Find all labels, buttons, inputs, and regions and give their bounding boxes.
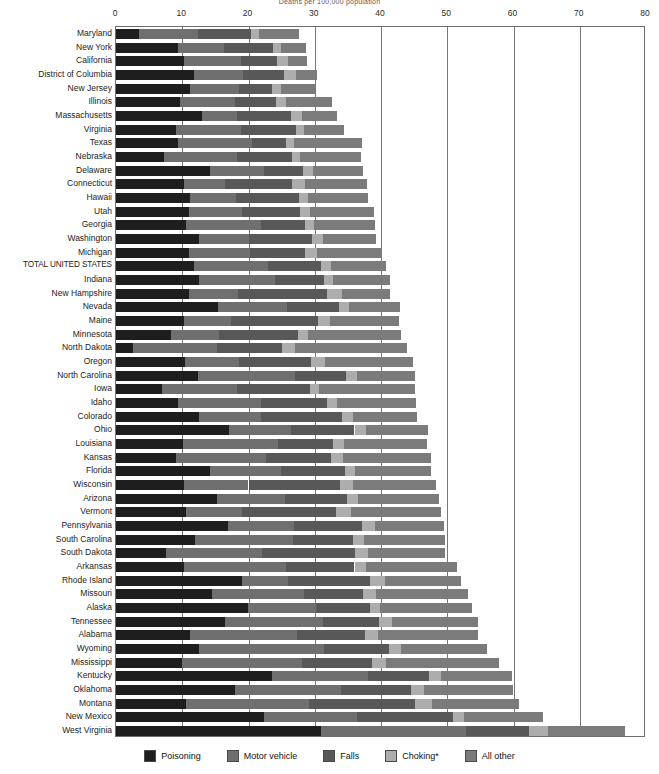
bar-row[interactable] bbox=[116, 125, 646, 135]
bar-segment-choking[interactable] bbox=[362, 521, 375, 531]
bar-segment-poisoning[interactable] bbox=[116, 29, 139, 39]
bar-segment-allother[interactable] bbox=[281, 43, 306, 53]
bar-segment-poisoning[interactable] bbox=[116, 466, 210, 476]
bar-segment-choking[interactable] bbox=[346, 371, 357, 381]
bar-segment-falls[interactable] bbox=[278, 439, 334, 449]
bar-segment-allother[interactable] bbox=[464, 712, 543, 722]
bar-segment-poisoning[interactable] bbox=[116, 371, 198, 381]
bar-segment-falls[interactable] bbox=[225, 179, 292, 189]
bar-row[interactable] bbox=[116, 29, 646, 39]
bar-segment-allother[interactable] bbox=[351, 507, 442, 517]
bar-segment-allother[interactable] bbox=[337, 398, 417, 408]
bar-row[interactable] bbox=[116, 699, 646, 709]
bar-segment-allother[interactable] bbox=[308, 330, 401, 340]
bar-row[interactable] bbox=[116, 97, 646, 107]
bar-segment-allother[interactable] bbox=[325, 357, 413, 367]
bar-segment-choking[interactable] bbox=[272, 84, 281, 94]
bar-row[interactable] bbox=[116, 56, 646, 66]
bar-segment-allother[interactable] bbox=[366, 425, 428, 435]
bar-segment-allother[interactable] bbox=[342, 289, 390, 299]
bar-segment-poisoning[interactable] bbox=[116, 234, 199, 244]
bar-segment-choking[interactable] bbox=[300, 207, 310, 217]
bar-segment-choking[interactable] bbox=[370, 576, 385, 586]
bar-segment-choking[interactable] bbox=[347, 494, 358, 504]
bar-segment-poisoning[interactable] bbox=[116, 630, 190, 640]
bar-segment-poisoning[interactable] bbox=[116, 425, 229, 435]
bar-segment-choking[interactable] bbox=[429, 671, 442, 681]
bar-row[interactable] bbox=[116, 384, 646, 394]
bar-segment-motorvehicle[interactable] bbox=[199, 234, 249, 244]
bar-segment-falls[interactable] bbox=[242, 207, 300, 217]
bar-segment-falls[interactable] bbox=[249, 234, 313, 244]
legend-item-poisoning[interactable]: Poisoning bbox=[144, 750, 201, 762]
bar-row[interactable] bbox=[116, 603, 646, 613]
bar-segment-allother[interactable] bbox=[288, 56, 307, 66]
bar-segment-choking[interactable] bbox=[282, 343, 295, 353]
bar-segment-allother[interactable] bbox=[441, 671, 511, 681]
bar-segment-motorvehicle[interactable] bbox=[199, 275, 275, 285]
bar-segment-allother[interactable] bbox=[343, 453, 430, 463]
bar-segment-poisoning[interactable] bbox=[116, 316, 184, 326]
bar-segment-choking[interactable] bbox=[318, 316, 330, 326]
bar-segment-allother[interactable] bbox=[375, 521, 444, 531]
bar-segment-poisoning[interactable] bbox=[116, 671, 272, 681]
bar-segment-allother[interactable] bbox=[378, 630, 477, 640]
bar-segment-poisoning[interactable] bbox=[116, 712, 264, 722]
bar-row[interactable] bbox=[116, 357, 646, 367]
bar-segment-allother[interactable] bbox=[314, 220, 375, 230]
bar-row[interactable] bbox=[116, 576, 646, 586]
bar-segment-motorvehicle[interactable] bbox=[180, 97, 235, 107]
bar-segment-motorvehicle[interactable] bbox=[190, 193, 236, 203]
bar-segment-poisoning[interactable] bbox=[116, 125, 176, 135]
bar-segment-motorvehicle[interactable] bbox=[198, 371, 295, 381]
bar-segment-choking[interactable] bbox=[333, 439, 344, 449]
bar-segment-choking[interactable] bbox=[365, 630, 378, 640]
bar-segment-choking[interactable] bbox=[355, 425, 366, 435]
bar-segment-falls[interactable] bbox=[368, 671, 429, 681]
bar-row[interactable] bbox=[116, 726, 646, 736]
bar-row[interactable] bbox=[116, 480, 646, 490]
bar-row[interactable] bbox=[116, 535, 646, 545]
legend-item-allother[interactable]: All other bbox=[465, 750, 515, 762]
bar-row[interactable] bbox=[116, 685, 646, 695]
bar-segment-poisoning[interactable] bbox=[116, 494, 217, 504]
bar-segment-falls[interactable] bbox=[261, 220, 305, 230]
bar-segment-falls[interactable] bbox=[294, 521, 362, 531]
bar-row[interactable] bbox=[116, 439, 646, 449]
bar-segment-falls[interactable] bbox=[198, 29, 251, 39]
bar-segment-motorvehicle[interactable] bbox=[184, 316, 232, 326]
bar-segment-choking[interactable] bbox=[327, 289, 342, 299]
bar-row[interactable] bbox=[116, 494, 646, 504]
bar-segment-motorvehicle[interactable] bbox=[186, 507, 242, 517]
bar-segment-allother[interactable] bbox=[353, 480, 436, 490]
bar-segment-choking[interactable] bbox=[292, 152, 300, 162]
bar-segment-choking[interactable] bbox=[251, 29, 259, 39]
bar-segment-allother[interactable] bbox=[308, 193, 368, 203]
bar-segment-falls[interactable] bbox=[357, 712, 452, 722]
legend-item-motorvehicle[interactable]: Motor vehicle bbox=[227, 750, 298, 762]
bar-segment-choking[interactable] bbox=[355, 548, 368, 558]
bar-segment-falls[interactable] bbox=[239, 84, 273, 94]
bar-segment-allother[interactable] bbox=[432, 699, 519, 709]
bar-segment-poisoning[interactable] bbox=[116, 207, 189, 217]
bar-segment-choking[interactable] bbox=[411, 685, 424, 695]
bar-segment-poisoning[interactable] bbox=[116, 384, 162, 394]
bar-segment-motorvehicle[interactable] bbox=[212, 589, 304, 599]
bar-segment-allother[interactable] bbox=[392, 617, 478, 627]
bar-segment-motorvehicle[interactable] bbox=[189, 248, 250, 258]
bar-segment-motorvehicle[interactable] bbox=[190, 84, 239, 94]
bar-segment-choking[interactable] bbox=[353, 535, 364, 545]
bar-segment-poisoning[interactable] bbox=[116, 439, 183, 449]
bar-segment-choking[interactable] bbox=[299, 193, 308, 203]
bar-row[interactable] bbox=[116, 412, 646, 422]
bar-segment-falls[interactable] bbox=[241, 125, 296, 135]
bar-segment-poisoning[interactable] bbox=[116, 589, 212, 599]
bar-segment-choking[interactable] bbox=[312, 234, 323, 244]
bar-segment-motorvehicle[interactable] bbox=[202, 111, 236, 121]
bar-segment-motorvehicle[interactable] bbox=[166, 548, 262, 558]
bar-segment-allother[interactable] bbox=[333, 275, 389, 285]
bar-segment-choking[interactable] bbox=[415, 699, 432, 709]
bar-segment-falls[interactable] bbox=[302, 658, 372, 668]
bar-segment-poisoning[interactable] bbox=[116, 111, 202, 121]
bar-segment-poisoning[interactable] bbox=[116, 56, 184, 66]
